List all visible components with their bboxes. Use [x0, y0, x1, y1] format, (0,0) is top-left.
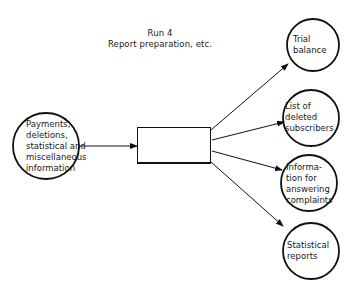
- output-arrow-complaints-info: [212, 151, 282, 170]
- output-arrow-deleted-subscribers: [212, 122, 284, 140]
- output-label-line: subscribers: [285, 123, 334, 134]
- output-label-trial-balance: Trial balance: [293, 34, 326, 56]
- output-label-line: Statistical: [287, 240, 329, 251]
- title-subtitle: Report preparation, etc.: [80, 39, 240, 50]
- process-box: [137, 127, 211, 164]
- output-label-line: tion for: [286, 173, 333, 184]
- output-label-line: reports: [287, 251, 329, 262]
- title-run: Run 4: [80, 28, 240, 39]
- output-label-line: Trial: [293, 34, 326, 45]
- output-label-line: balance: [293, 45, 326, 56]
- output-label-complaints-info: Informa- tion for answering complaints: [286, 162, 333, 206]
- output-label-line: answering: [286, 184, 333, 195]
- output-label-line: List of: [285, 101, 334, 112]
- input-label: Payments, deletions, statistical and mis…: [26, 119, 87, 174]
- output-arrow-trial-balance: [211, 64, 288, 130]
- input-label-line: statistical and: [26, 141, 87, 152]
- output-arrow-statistical-reports: [211, 162, 283, 226]
- output-label-line: Informa-: [286, 162, 333, 173]
- output-label-line: complaints: [286, 195, 333, 206]
- diagram-title: Run 4 Report preparation, etc.: [80, 28, 240, 50]
- output-label-statistical-reports: Statistical reports: [287, 240, 329, 262]
- input-label-line: Payments,: [26, 119, 87, 130]
- input-label-line: information: [26, 163, 87, 174]
- input-label-line: miscellaneous: [26, 152, 87, 163]
- output-label-deleted-subscribers: List of deleted subscribers: [285, 101, 334, 134]
- input-label-line: deletions,: [26, 130, 87, 141]
- output-label-line: deleted: [285, 112, 334, 123]
